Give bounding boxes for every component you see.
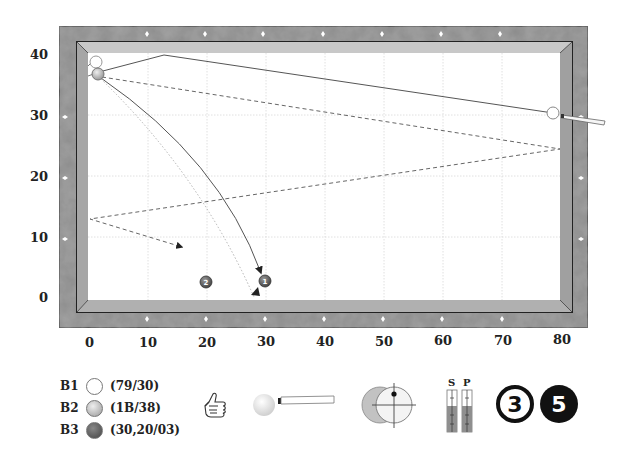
ball-b2[interactable] [92,68,104,80]
legend-key: B3 [60,423,86,437]
y-tick-20: 20 [30,169,48,184]
legend-b2: B2 (1B/38) [60,398,161,418]
table-cloth [88,53,560,300]
legend-position: (30,20/03) [110,423,180,437]
legend-position: (1B/38) [110,401,161,415]
legend-position: (79/30) [110,379,159,393]
x-tick-80: 80 [553,332,571,347]
y-tick-30: 30 [30,108,48,123]
y-tick-0: 0 [39,290,48,305]
gauge-label-p: P [463,377,471,388]
marker-1[interactable]: 1 [259,275,271,287]
badge-outline-3[interactable]: 3 [496,385,534,423]
x-tick-50: 50 [375,334,393,349]
legend-b1: B1 (79/30) [60,376,159,396]
ball-swatch-dark-gray [86,422,103,439]
spin-power-gauge[interactable] [447,390,472,432]
x-tick-20: 20 [198,335,216,350]
thumbs-up-icon[interactable] [205,393,225,417]
cue-and-ball-icon[interactable] [253,394,334,416]
ball-b1[interactable] [547,107,559,119]
marker-2[interactable]: 2 [200,276,212,288]
x-tick-40: 40 [316,334,334,349]
y-tick-40: 40 [30,47,48,62]
svg-text:2: 2 [204,279,209,287]
badge-filled-5[interactable]: 5 [540,385,578,423]
x-tick-60: 60 [434,333,452,348]
ball-hit-aim-icon[interactable] [362,383,416,428]
legend-b3: B3 (30,20/03) [60,420,180,440]
x-tick-10: 10 [139,335,157,350]
y-tick-10: 10 [30,230,48,245]
gauge-label-s: S [448,377,455,388]
ball-swatch-white [86,378,103,395]
legend-key: B2 [60,401,86,415]
ball-swatch-light-gray [86,400,103,417]
ghost-ball [90,56,102,68]
billiards-diagram-page: 2 1 [0,0,638,465]
legend-key: B1 [60,379,86,393]
x-tick-30: 30 [257,334,275,349]
x-tick-0: 0 [85,335,94,350]
x-tick-70: 70 [494,333,512,348]
svg-text:1: 1 [263,278,268,286]
